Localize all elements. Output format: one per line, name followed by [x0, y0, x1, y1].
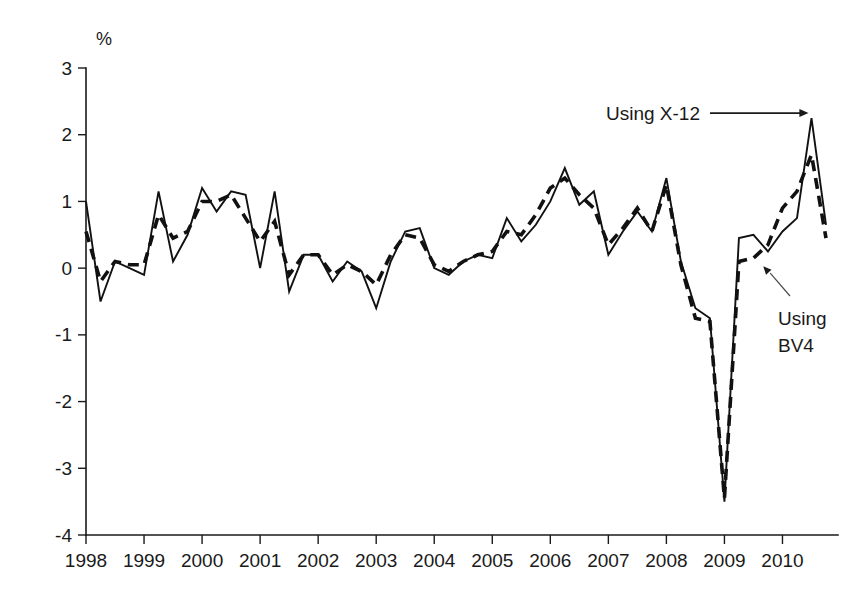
x-axis-tick-label: 2009	[703, 550, 745, 571]
x-axis-tick-label: 1998	[65, 550, 107, 571]
y-axis-tick-label: -3	[55, 458, 72, 479]
annotation-arrowhead	[799, 109, 808, 117]
x-axis-tick-label: 2004	[413, 550, 456, 571]
y-axis-tick-label: 1	[61, 191, 72, 212]
x-axis-tick-label: 1999	[123, 550, 165, 571]
annotation-label-bv4-line1: Using	[778, 308, 827, 329]
x-axis-tick-label: 2000	[181, 550, 223, 571]
line-chart: 3210-1-2-3-41998199920002001200220032004…	[0, 0, 865, 604]
chart-axes: 3210-1-2-3-41998199920002001200220032004…	[55, 29, 838, 571]
series-line-solid	[86, 118, 826, 502]
x-axis-tick-label: 2003	[355, 550, 397, 571]
x-axis-tick-label: 2008	[645, 550, 687, 571]
y-axis-tick-label: 3	[61, 58, 72, 79]
y-axis-tick-label: -2	[55, 391, 72, 412]
annotation-label-bv4-line2: BV4	[778, 335, 814, 356]
y-axis-tick-label: 2	[61, 124, 72, 145]
annotation-label-x12: Using X-12	[606, 103, 700, 124]
x-axis-tick-label: 2001	[239, 550, 281, 571]
chart-annotations: Using X-12UsingBV4	[606, 103, 827, 356]
x-axis-tick-label: 2002	[297, 550, 339, 571]
chart-series	[86, 118, 826, 502]
x-axis-tick-label: 2006	[529, 550, 571, 571]
x-axis-tick-label: 2007	[587, 550, 629, 571]
y-axis-unit-label: %	[96, 29, 112, 49]
x-axis-tick-label: 2005	[471, 550, 513, 571]
chart-page: 3210-1-2-3-41998199920002001200220032004…	[0, 0, 865, 604]
y-axis-tick-label: -1	[55, 324, 72, 345]
y-axis-tick-label: -4	[55, 525, 72, 546]
annotation-leader-bv4	[770, 273, 790, 296]
y-axis-tick-label: 0	[61, 258, 72, 279]
x-axis-tick-label: 2010	[761, 550, 803, 571]
